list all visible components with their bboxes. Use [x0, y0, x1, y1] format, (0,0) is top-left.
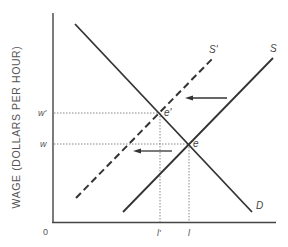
tick-w: w — [40, 139, 47, 149]
supply-shift-arrow — [185, 96, 227, 101]
employment-shift-arrow — [133, 149, 172, 154]
shifted-supply-label: S' — [209, 44, 219, 55]
demand-curve — [75, 24, 252, 212]
demand-label: D — [256, 200, 263, 211]
tick-l-prime: l' — [157, 228, 161, 238]
y-axis-label: WAGE (DOLLARS PER HOUR) — [10, 46, 22, 209]
new-equilibrium-label: e' — [164, 107, 173, 118]
supply-curve — [123, 58, 273, 212]
tick-w-prime: w' — [38, 108, 46, 118]
origin-label: 0 — [43, 227, 48, 237]
guide-lines — [54, 113, 189, 222]
shifted-supply-curve — [76, 58, 213, 198]
equilibrium-label: e — [193, 138, 199, 149]
tick-l: l — [188, 228, 191, 238]
diagram-canvas: WAGE (DOLLARS PER HOUR) 0 w' w l' l D S … — [0, 0, 288, 247]
supply-label: S — [270, 43, 277, 54]
